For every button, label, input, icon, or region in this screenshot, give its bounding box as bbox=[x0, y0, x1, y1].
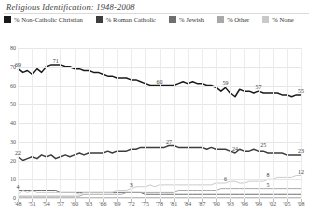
x-axis-tick-label: '69 bbox=[114, 201, 121, 207]
legend-swatch-icon bbox=[96, 16, 103, 23]
x-axis-tick-label: '84 bbox=[184, 201, 191, 207]
grid-line-vertical bbox=[160, 48, 161, 198]
data-label: 24 bbox=[232, 146, 238, 152]
legend-label: % Other bbox=[227, 16, 249, 23]
chart-title: Religious Identification: 1948-2008 bbox=[6, 2, 135, 12]
data-label: 3 bbox=[130, 182, 133, 188]
legend-swatch-icon bbox=[169, 16, 176, 23]
data-label: 4 bbox=[17, 184, 20, 190]
x-axis-tick-label: '75 bbox=[142, 201, 149, 207]
legend-label: % Non-Catholic Christian bbox=[14, 16, 83, 23]
data-label: 71 bbox=[53, 58, 59, 64]
data-label: 23 bbox=[298, 148, 304, 154]
data-label: 69 bbox=[15, 62, 21, 68]
grid-line-vertical bbox=[89, 48, 90, 198]
title-divider bbox=[4, 13, 309, 14]
data-label: 5 bbox=[266, 182, 269, 188]
data-label: 25 bbox=[260, 142, 266, 148]
y-axis-tick-label: 40 bbox=[10, 120, 16, 126]
grid-line-vertical bbox=[103, 48, 104, 198]
data-label: 27 bbox=[166, 139, 172, 145]
x-axis-tick-label: '99 bbox=[255, 201, 262, 207]
grid-line-vertical bbox=[202, 48, 203, 198]
chart-root: Religious Identification: 1948-2008 % No… bbox=[0, 0, 313, 221]
x-axis-tick-label: '93 bbox=[227, 201, 234, 207]
x-axis-tick-label: '72 bbox=[128, 201, 135, 207]
grid-line-vertical bbox=[145, 48, 146, 198]
data-label: 59 bbox=[223, 80, 229, 86]
x-axis-tick-label: '05 bbox=[283, 201, 290, 207]
legend-item[interactable]: % Other bbox=[217, 16, 249, 23]
x-axis-tick-label: '66 bbox=[99, 201, 106, 207]
grid-line-vertical bbox=[117, 48, 118, 198]
y-axis-tick-label: 10 bbox=[10, 176, 16, 182]
grid-line-vertical bbox=[46, 48, 47, 198]
y-axis-tick-label: 80 bbox=[10, 45, 16, 51]
x-axis: '48'51'54'57'60'63'66'69'72'75'78'81'84'… bbox=[18, 199, 301, 219]
plot-area: 69716059575522272425234368512 bbox=[18, 48, 301, 198]
y-axis-tick-label: 30 bbox=[10, 139, 16, 145]
chart-legend: % Non-Catholic Christian% Roman Catholic… bbox=[4, 16, 311, 26]
legend-item[interactable]: % Non-Catholic Christian bbox=[4, 16, 83, 23]
data-label: 12 bbox=[298, 169, 304, 175]
grid-line-vertical bbox=[259, 48, 260, 198]
x-axis-tick-label: '57 bbox=[57, 201, 64, 207]
y-axis-tick-label: 50 bbox=[10, 101, 16, 107]
data-label: 22 bbox=[15, 150, 21, 156]
grid-line-vertical bbox=[18, 48, 19, 198]
grid-line-vertical bbox=[32, 48, 33, 198]
grid-line-vertical bbox=[75, 48, 76, 198]
x-axis-tick-label: '54 bbox=[43, 201, 50, 207]
data-label: 57 bbox=[256, 84, 262, 90]
grid-line-vertical bbox=[188, 48, 189, 198]
x-axis-tick-label: '08 bbox=[297, 201, 304, 207]
grid-line-vertical bbox=[230, 48, 231, 198]
grid-line-vertical bbox=[216, 48, 217, 198]
legend-label: % None bbox=[272, 16, 293, 23]
grid-line-vertical bbox=[244, 48, 245, 198]
grid-line-vertical bbox=[287, 48, 288, 198]
y-axis-tick-label: 20 bbox=[10, 158, 16, 164]
data-label: 55 bbox=[298, 88, 304, 94]
x-axis-tick-label: '90 bbox=[213, 201, 220, 207]
y-axis-tick-label: 60 bbox=[10, 83, 16, 89]
legend-item[interactable]: % None bbox=[262, 16, 293, 23]
legend-item[interactable]: % Jewish bbox=[169, 16, 204, 23]
x-axis-tick-label: '60 bbox=[71, 201, 78, 207]
grid-line-vertical bbox=[60, 48, 61, 198]
grid-line-vertical bbox=[273, 48, 274, 198]
grid-line-vertical bbox=[301, 48, 302, 198]
grid-line-vertical bbox=[131, 48, 132, 198]
x-axis-tick-label: '87 bbox=[198, 201, 205, 207]
x-axis-tick-label: '78 bbox=[156, 201, 163, 207]
x-axis-tick-label: '63 bbox=[85, 201, 92, 207]
legend-swatch-icon bbox=[4, 16, 11, 23]
y-axis: 01020304050607080 bbox=[0, 48, 18, 198]
x-axis-tick-label: '51 bbox=[29, 201, 36, 207]
legend-item[interactable]: % Roman Catholic bbox=[96, 16, 156, 23]
data-label: 60 bbox=[157, 79, 163, 85]
x-axis-tick-label: '96 bbox=[241, 201, 248, 207]
legend-swatch-icon bbox=[217, 16, 224, 23]
x-axis-tick-label: '81 bbox=[170, 201, 177, 207]
x-axis-tick-label: '48 bbox=[14, 201, 21, 207]
grid-line-vertical bbox=[174, 48, 175, 198]
data-label: 6 bbox=[224, 176, 227, 182]
legend-label: % Roman Catholic bbox=[106, 16, 156, 23]
data-label: 8 bbox=[266, 172, 269, 178]
legend-swatch-icon bbox=[262, 16, 269, 23]
x-axis-tick-label: '02 bbox=[269, 201, 276, 207]
legend-label: % Jewish bbox=[179, 16, 204, 23]
